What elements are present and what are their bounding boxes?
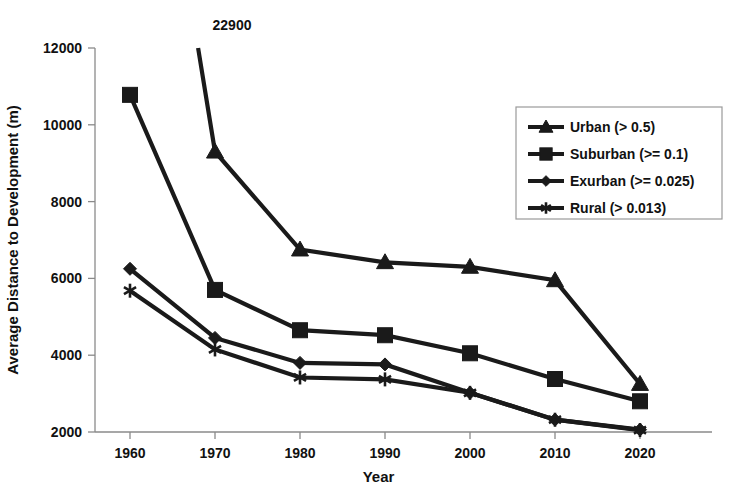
data-point-triangle <box>207 143 224 158</box>
x-tick-label: 1960 <box>114 445 145 461</box>
x-tick-label: 2000 <box>454 445 485 461</box>
legend-label: Urban (> 0.5) <box>570 119 655 135</box>
y-axis-ticks <box>88 48 95 432</box>
legend-item[interactable]: Urban (> 0.5) <box>528 119 655 135</box>
legend-item[interactable]: Suburban (>= 0.1) <box>528 146 688 162</box>
x-axis-ticks <box>130 432 640 439</box>
x-axis-title: Year <box>363 468 395 485</box>
series-layer <box>123 48 649 437</box>
y-axis-tick-labels: 20004000600080001000012000 <box>43 40 82 440</box>
x-tick-label: 1970 <box>199 445 230 461</box>
y-tick-label: 8000 <box>51 194 82 210</box>
data-point-square <box>540 148 552 160</box>
chart-container: 20004000600080001000012000 1960197019801… <box>0 0 750 492</box>
y-tick-label: 2000 <box>51 424 82 440</box>
y-tick-label: 12000 <box>43 40 82 56</box>
y-axis-title: Average Distance to Development (m) <box>4 105 21 375</box>
data-point-square <box>293 323 308 338</box>
data-point-diamond <box>294 356 307 369</box>
legend-label: Exurban (>= 0.025) <box>570 173 695 189</box>
data-point-square <box>123 87 138 102</box>
line-chart: 20004000600080001000012000 1960197019801… <box>0 0 750 492</box>
legend[interactable]: Urban (> 0.5)Suburban (>= 0.1)Exurban (>… <box>516 107 722 219</box>
annotation-layer: 22900 <box>213 17 252 33</box>
legend-label: Suburban (>= 0.1) <box>570 146 688 162</box>
x-tick-label: 2010 <box>539 445 570 461</box>
x-tick-label: 1990 <box>369 445 400 461</box>
data-point-square <box>378 328 393 343</box>
data-point-square <box>548 372 563 387</box>
data-point-square <box>463 346 478 361</box>
y-tick-label: 6000 <box>51 270 82 286</box>
data-point-square <box>208 282 223 297</box>
x-axis-group: 1960197019801990200020102020 <box>95 432 712 461</box>
y-tick-label: 10000 <box>43 117 82 133</box>
data-point-diamond <box>379 358 392 371</box>
x-tick-label: 1980 <box>284 445 315 461</box>
series-exurban <box>124 262 647 436</box>
x-axis-tick-labels: 1960197019801990200020102020 <box>114 445 655 461</box>
y-axis-group: 20004000600080001000012000 <box>43 40 95 440</box>
value-annotation: 22900 <box>213 17 252 33</box>
y-tick-label: 4000 <box>51 347 82 363</box>
x-tick-label: 2020 <box>624 445 655 461</box>
legend-label: Rural (> 0.013) <box>570 200 666 216</box>
data-point-square <box>633 394 648 409</box>
